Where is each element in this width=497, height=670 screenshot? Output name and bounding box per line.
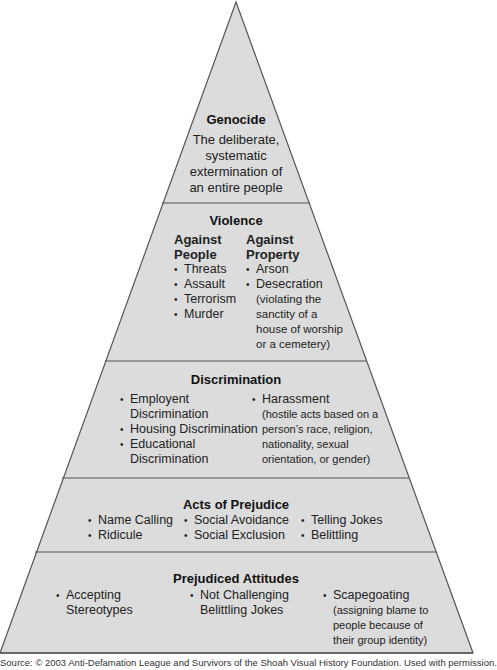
- list-item: Educational Discrimination: [120, 437, 260, 467]
- desecration-note: (violating the sanctity of a house of wo…: [246, 292, 356, 352]
- attitudes-col-1: Accepting Stereotypes: [56, 588, 156, 618]
- list-item: Arson: [246, 262, 356, 277]
- acts-col-3: Telling Jokes Belittling: [301, 513, 401, 543]
- list-item: Name Calling: [88, 513, 188, 528]
- list-item: Belittling: [301, 528, 401, 543]
- violence-against-property: Against Property Arson Desecration (viol…: [246, 232, 356, 352]
- list-item: Desecration: [246, 277, 356, 292]
- list-item: Employent Discrimination: [120, 392, 260, 422]
- acts-of-prejudice-title: Acts of Prejudice: [166, 497, 306, 512]
- prejudiced-attitudes-title: Prejudiced Attitudes: [156, 571, 316, 586]
- list-item: Terrorism: [174, 292, 254, 307]
- against-property-heading: Against Property: [246, 232, 356, 262]
- list-item: Social Exclusion: [184, 528, 294, 543]
- list-item: Not Challenging: [190, 588, 289, 602]
- list-item: Telling Jokes: [301, 513, 401, 528]
- list-item: Ridicule: [88, 528, 188, 543]
- discrimination-left-list: Employent Discrimination Housing Discrim…: [120, 392, 260, 467]
- discrimination-title: Discrimination: [166, 372, 306, 387]
- genocide-title: Genocide: [186, 112, 286, 127]
- genocide-description: The deliberate, systematic extermination…: [166, 132, 306, 196]
- pyramid-fill: [0, 2, 473, 653]
- scapegoating-note: (assigning blame to people because of th…: [323, 603, 443, 648]
- list-item: Murder: [174, 307, 254, 322]
- violence-against-people: Against People Threats Assault Terrorism…: [174, 232, 254, 322]
- list-item: Assault: [174, 277, 254, 292]
- discrimination-right-list: Harassment (hostile acts based on a pers…: [252, 392, 382, 467]
- harassment-note: (hostile acts based on a person’s race, …: [252, 407, 382, 467]
- list-item: Threats: [174, 262, 254, 277]
- list-item: Scapegoating: [323, 588, 409, 602]
- list-item: Accepting: [56, 588, 121, 602]
- source-caption: Source: © 2003 Anti-Defamation League an…: [0, 657, 497, 668]
- attitudes-col-2: Not Challenging Belittling Jokes: [190, 588, 310, 618]
- list-item: Housing Discrimination: [120, 422, 260, 437]
- acts-col-1: Name Calling Ridicule: [88, 513, 188, 543]
- against-people-heading: Against People: [174, 232, 254, 262]
- list-item: Social Avoidance: [184, 513, 294, 528]
- acts-col-2: Social Avoidance Social Exclusion: [184, 513, 294, 543]
- list-item: Harassment: [252, 392, 382, 407]
- violence-title: Violence: [186, 213, 286, 228]
- attitudes-col-3: Scapegoating (assigning blame to people …: [323, 588, 443, 648]
